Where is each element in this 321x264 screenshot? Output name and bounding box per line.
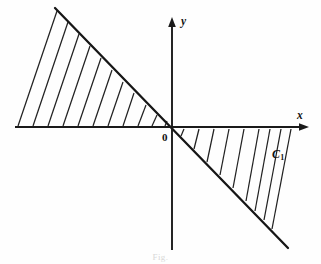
figure-caption: Fig. (0, 252, 321, 264)
x-axis-label: x (297, 110, 303, 122)
y-axis-label: y (181, 16, 186, 28)
origin-label: 0 (162, 132, 168, 143)
curve-label-subscript: 1 (280, 153, 284, 162)
hatch-group-lower-right (181, 129, 291, 229)
curve-label-c1: C1 (272, 148, 284, 160)
curve-label-letter: C (272, 147, 280, 161)
hatch-group-upper-left (18, 11, 167, 126)
coordinate-plane-graphic (0, 0, 321, 264)
x-axis-arrow-icon (299, 123, 309, 131)
figure-canvas: y x 0 C1 Fig. (0, 0, 321, 264)
y-axis-arrow-icon (168, 17, 176, 27)
